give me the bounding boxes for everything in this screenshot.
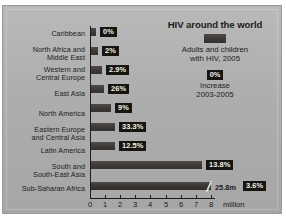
- bar-western-central-europe: [91, 66, 102, 74]
- value-label-sub-saharan-africa: 25.8m: [215, 183, 236, 192]
- increase-badge-caribbean: 0%: [100, 27, 117, 37]
- increase-badge-eastern-europe-central-asia: 33.3%: [119, 122, 146, 132]
- x-axis-tick-0: [90, 195, 91, 199]
- chart-legend: HIV around the world Adults and children…: [151, 19, 279, 99]
- category-label-north-america: North America: [2, 110, 85, 118]
- legend-caption-line1: Adults and children: [151, 45, 279, 54]
- category-label-latin-america: Latin America: [2, 147, 85, 155]
- x-axis-unit-label: million: [223, 200, 245, 209]
- category-label-eastern-europe-central-asia: Eastern Europe and Central Asia: [2, 126, 85, 142]
- x-axis-tick-label-7: 7: [189, 200, 203, 209]
- chart-figure: Caribbean North Africa and Middle East W…: [2, 5, 282, 214]
- x-axis-tick-label-2: 2: [113, 200, 127, 209]
- category-label-western-central-europe: Western and Central Europe: [2, 66, 85, 82]
- bar-north-africa-middle-east: [91, 47, 98, 55]
- x-axis-tick-8: [211, 195, 212, 199]
- x-axis-tick-label-6: 6: [174, 200, 188, 209]
- increase-badge-east-asia: 26%: [108, 84, 129, 94]
- category-label-sub-saharan-africa: Sub-Saharan Africa: [2, 185, 85, 193]
- legend-badge-example: 0%: [207, 70, 224, 80]
- x-axis-tick-6: [181, 195, 182, 199]
- increase-badge-sub-saharan-africa: 3.6%: [243, 181, 266, 191]
- category-label-north-africa-middle-east: North Africa and Middle East: [2, 46, 85, 62]
- x-axis-tick-7: [196, 195, 197, 199]
- x-axis-tick-1: [105, 195, 106, 199]
- category-label-caribbean: Caribbean: [2, 30, 85, 38]
- bar-sub-saharan-africa: [91, 182, 211, 190]
- x-axis-tick-2: [120, 195, 121, 199]
- category-label-south-south-east-asia: South and South-East Asia: [2, 163, 85, 179]
- legend-caption-line2: with HIV, 2005: [151, 54, 279, 63]
- increase-badge-north-america: 9%: [115, 103, 132, 113]
- x-axis-tick-label-0: 0: [83, 200, 97, 209]
- bar-eastern-europe-central-asia: [91, 123, 115, 131]
- x-axis-tick-3: [135, 195, 136, 199]
- chart-title: HIV around the world: [151, 19, 279, 30]
- bar-south-south-east-asia: [91, 161, 202, 169]
- increase-badge-south-south-east-asia: 13.8%: [206, 160, 233, 170]
- x-axis-tick-label-1: 1: [98, 200, 112, 209]
- increase-badge-latin-america: 12.5%: [119, 141, 146, 151]
- category-label-east-asia: East Asia: [2, 90, 85, 98]
- bar-north-america: [91, 104, 111, 112]
- x-axis-tick-label-4: 4: [143, 200, 157, 209]
- legend-swatch-bar: [204, 34, 226, 43]
- x-axis-tick-label-5: 5: [159, 200, 173, 209]
- x-axis-tick-label-3: 3: [128, 200, 142, 209]
- bar-latin-america: [91, 142, 115, 150]
- bar-caribbean: [91, 28, 96, 36]
- increase-badge-western-central-europe: 2.9%: [106, 65, 129, 75]
- x-axis-tick-5: [166, 195, 167, 199]
- bar-east-asia: [91, 85, 104, 93]
- legend-badge-caption-line2: 2003-2005: [151, 90, 279, 99]
- increase-badge-north-africa-middle-east: 2%: [102, 46, 119, 56]
- legend-badge-caption-line1: Increase: [151, 81, 279, 90]
- x-axis-tick-4: [150, 195, 151, 199]
- x-axis-tick-label-8: 8: [204, 200, 218, 209]
